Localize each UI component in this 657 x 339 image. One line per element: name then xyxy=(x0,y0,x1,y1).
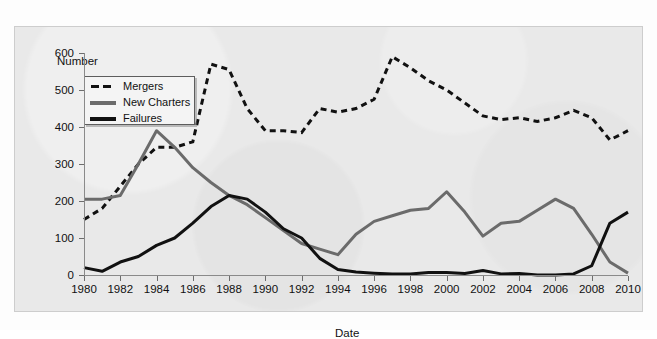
legend-item-new-charters: New Charters xyxy=(85,95,194,109)
legend-label-new-charters: New Charters xyxy=(123,96,190,108)
x-tick-mark xyxy=(519,276,520,281)
solid-key-new-charters-icon xyxy=(90,95,120,109)
x-tick-label: 1988 xyxy=(216,283,242,295)
y-axis-line xyxy=(84,53,85,275)
x-tick-label: 1996 xyxy=(361,283,387,295)
y-tick-mark xyxy=(79,201,84,202)
x-tick-mark xyxy=(483,276,484,281)
y-tick-mark xyxy=(79,238,84,239)
x-tick-label: 2010 xyxy=(615,283,641,295)
x-tick-mark xyxy=(338,276,339,281)
x-tick-label: 1994 xyxy=(325,283,351,295)
x-axis-line xyxy=(84,275,628,276)
x-tick-label: 1980 xyxy=(71,283,97,295)
y-tick-label: 300 xyxy=(40,158,74,170)
dashed-key-mergers-icon xyxy=(90,79,120,93)
x-tick-label: 1984 xyxy=(144,283,170,295)
x-tick-mark xyxy=(84,276,85,281)
x-tick-mark xyxy=(193,276,194,281)
y-tick-mark xyxy=(79,90,84,91)
legend-item-failures: Failures xyxy=(85,111,194,125)
series-canvas xyxy=(15,27,644,313)
x-tick-label: 2008 xyxy=(579,283,605,295)
legend-label-mergers: Mergers xyxy=(123,80,163,92)
x-tick-label: 2002 xyxy=(470,283,496,295)
x-tick-label: 2004 xyxy=(506,283,532,295)
x-tick-mark xyxy=(229,276,230,281)
scan-top-cut-text xyxy=(0,0,657,8)
x-tick-label: 1998 xyxy=(398,283,424,295)
line-new-charters xyxy=(84,131,628,273)
x-tick-mark xyxy=(157,276,158,281)
x-tick-mark xyxy=(265,276,266,281)
x-tick-mark xyxy=(120,276,121,281)
x-tick-label: 2006 xyxy=(543,283,569,295)
y-tick-label: 0 xyxy=(40,269,74,281)
y-tick-mark xyxy=(79,164,84,165)
x-tick-label: 1986 xyxy=(180,283,206,295)
x-tick-mark xyxy=(447,276,448,281)
x-tick-label: 2000 xyxy=(434,283,460,295)
x-tick-label: 1990 xyxy=(253,283,279,295)
y-tick-label: 200 xyxy=(40,195,74,207)
x-tick-mark xyxy=(410,276,411,281)
x-tick-mark xyxy=(592,276,593,281)
y-tick-label: 100 xyxy=(40,232,74,244)
y-tick-label: 600 xyxy=(40,47,74,59)
plot-area xyxy=(15,27,644,313)
legend-item-mergers: Mergers xyxy=(85,79,194,93)
y-tick-mark xyxy=(79,53,84,54)
x-tick-mark xyxy=(628,276,629,281)
y-tick-label: 500 xyxy=(40,84,74,96)
solid-key-failures-icon xyxy=(90,111,120,125)
legend-label-failures: Failures xyxy=(123,112,162,124)
x-tick-mark xyxy=(302,276,303,281)
x-tick-label: 1992 xyxy=(289,283,315,295)
chart-legend: Mergers New Charters Failures xyxy=(84,76,195,125)
y-tick-mark xyxy=(79,127,84,128)
x-axis-title: Date xyxy=(335,327,359,339)
x-tick-mark xyxy=(374,276,375,281)
x-tick-mark xyxy=(555,276,556,281)
chart-panel: Number Date Mergers New Charters xyxy=(14,26,643,312)
x-tick-label: 1982 xyxy=(107,283,133,295)
y-tick-label: 400 xyxy=(40,121,74,133)
